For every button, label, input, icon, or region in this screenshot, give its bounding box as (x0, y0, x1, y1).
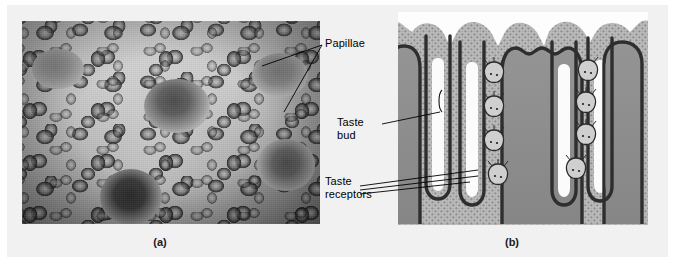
micrograph-grain (22, 21, 320, 224)
papilla-cross-section-svg (398, 12, 648, 225)
panel-a-micrograph (22, 21, 320, 224)
label-taste-bud: Taste bud (337, 116, 364, 142)
caption-panel-b: (b) (505, 236, 519, 248)
panel-b-diagram (398, 12, 648, 225)
papilla-connective-core-left (398, 46, 420, 224)
trench-lumen-right-inner (558, 64, 570, 197)
label-taste-receptors: Taste receptors (325, 175, 372, 201)
label-papillae: Papillae (325, 37, 365, 50)
figure-root: Papillae Taste bud Taste receptors (a) (… (0, 0, 675, 267)
trench-lumen-left-inner (466, 62, 478, 197)
trench-lumen-left-outer (432, 58, 444, 191)
caption-panel-a: (a) (153, 236, 166, 248)
